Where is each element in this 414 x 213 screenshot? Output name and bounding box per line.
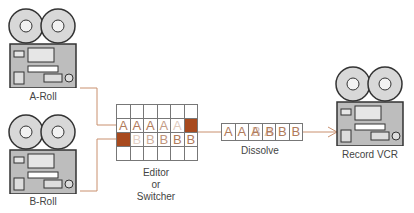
grid-cell: B	[144, 133, 158, 147]
grid-row-a: A A A A A	[117, 119, 198, 133]
grid-cell	[184, 105, 198, 119]
grid-cell	[184, 147, 198, 161]
strip-cell-mixed: AB	[262, 124, 276, 140]
record-vcr-label: Record VCR	[330, 149, 410, 161]
editor-label-line1: Editor	[126, 167, 186, 179]
a-roll-deck-icon	[6, 6, 82, 88]
grid-cell: A	[130, 119, 144, 133]
grid-cell: A	[144, 119, 158, 133]
grid-cell: A	[157, 119, 171, 133]
record-vcr-deck-icon	[333, 64, 409, 146]
grid-cell-filled	[184, 119, 198, 133]
grid-cell	[117, 105, 131, 119]
editor-switcher-grid: A A A A A B B B B B	[116, 104, 198, 161]
editor-label: Editor or Switcher	[126, 167, 186, 203]
grid-cell	[171, 105, 185, 119]
grid-cell: A	[117, 119, 131, 133]
dissolve-label: Dissolve	[230, 145, 290, 157]
grid-cell: B	[157, 133, 171, 147]
editor-label-line3: Switcher	[126, 191, 186, 203]
grid-cell: A	[171, 119, 185, 133]
grid-row	[117, 147, 198, 161]
grid-cell	[144, 105, 158, 119]
grid-cell	[144, 147, 158, 161]
grid-cell-filled	[117, 133, 131, 147]
strip-cell: B	[289, 124, 303, 140]
grid-cell	[171, 147, 185, 161]
b-roll-label: B-Roll	[20, 196, 66, 208]
strip-cell: A	[222, 124, 235, 140]
strip-cell-mixed: AB	[248, 124, 262, 140]
grid-cell: B	[171, 133, 185, 147]
grid-cell: B	[184, 133, 198, 147]
grid-cell	[130, 147, 144, 161]
grid-cell: B	[130, 133, 144, 147]
editor-label-line2: or	[126, 179, 186, 191]
grid-cell	[117, 147, 131, 161]
dissolve-output-strip: A A AB AB B B	[221, 123, 303, 141]
grid-cell	[130, 105, 144, 119]
grid-row	[117, 105, 198, 119]
grid-row-b: B B B B B	[117, 133, 198, 147]
strip-cell: A	[235, 124, 249, 140]
grid-cell	[157, 105, 171, 119]
strip-cell: B	[275, 124, 289, 140]
b-roll-deck-icon	[6, 112, 82, 194]
a-roll-label: A-Roll	[20, 91, 66, 103]
grid-cell	[157, 147, 171, 161]
